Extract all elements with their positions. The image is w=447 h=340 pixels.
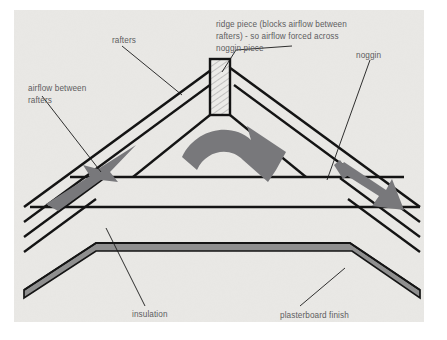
- ridge-piece-body: [210, 59, 230, 115]
- label-ridge-piece-line1: ridge piece (blocks airflow between: [216, 20, 347, 29]
- label-airflow-line2: rafters: [28, 96, 52, 105]
- figure-root: rafters ridge piece (blocks airflow betw…: [0, 0, 447, 340]
- label-ridge-piece-line3: noggin piece: [216, 44, 264, 53]
- label-ridge-piece-line2: rafters) - so airflow forced across: [216, 32, 339, 41]
- label-noggin: noggin: [356, 51, 382, 60]
- ridge-piece: [210, 59, 230, 115]
- label-rafters: rafters: [112, 36, 136, 45]
- roof-ventilation-diagram: rafters ridge piece (blocks airflow betw…: [0, 0, 447, 340]
- label-insulation: insulation: [132, 310, 168, 319]
- label-airflow-line1: airflow between: [28, 84, 87, 93]
- label-plasterboard-finish: plasterboard finish: [280, 311, 349, 320]
